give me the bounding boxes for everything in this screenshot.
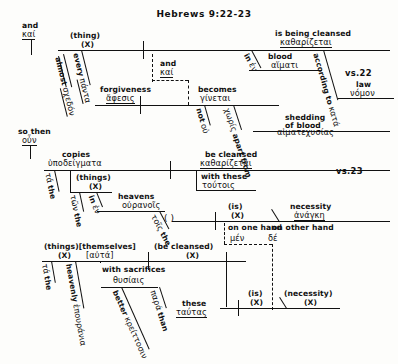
verse-label-22: vs.22	[345, 69, 372, 78]
correlative-greek-de: δέ	[268, 234, 278, 243]
clause1-obj-blood-greek: αἵματι	[271, 61, 298, 70]
clause2-prep-with-line	[196, 190, 256, 191]
clause2-conjunction-greek: οὖν	[22, 136, 37, 146]
clause1-verb-greek: καθαρίζεται	[280, 38, 332, 48]
clause2-prep-with-stem	[196, 170, 197, 190]
art3-ta-greek: τά	[40, 263, 52, 275]
clause3-copula-english: (is)	[248, 289, 262, 298]
clause2-appos-line	[70, 192, 112, 193]
clause1-subject-mod-every: every πάντα	[71, 52, 92, 104]
clause2-appos-stem	[70, 170, 71, 192]
clause1-joiner-greek: καί	[160, 68, 173, 78]
clause2-heavens-line	[97, 211, 165, 212]
clause3-copula-stem	[226, 252, 227, 307]
obj-blood-line	[249, 70, 322, 71]
clause2-copula-placeholder: (X)	[231, 211, 244, 220]
adj-better-english: better	[111, 289, 130, 317]
clause2-loop-connector: ( )	[164, 214, 174, 223]
prep-according-greek: κατά	[327, 105, 342, 128]
adj-heavenly-greek: ἐπουράνια	[71, 303, 88, 347]
clause2-baseline	[44, 170, 390, 171]
mod-almost-greek: σχεδόν	[60, 86, 78, 117]
clause1-subject2-greek: ἄφεσις	[106, 94, 135, 104]
coordinator-dash-left	[152, 54, 153, 82]
clause2-subject-greek: ὑποδείγματα	[48, 159, 102, 168]
clause2-copula-baseline	[172, 221, 390, 222]
obj-law-line	[338, 98, 394, 99]
clause3-verb-placeholder: (X)	[186, 251, 199, 260]
clause1-subject2-verb-divider	[140, 96, 141, 114]
clause1-obj-shedding-greek: αἱματεχυσίας	[277, 128, 334, 137]
page-title: Hebrews 9:22-23	[139, 10, 269, 19]
clause2-predicate-greek: ἀνάγκη	[294, 211, 325, 221]
conjunction-stem-1-dashed	[31, 49, 32, 55]
clause1-subject-english: (thing)	[70, 31, 100, 40]
clause1-baseline-2	[95, 105, 279, 106]
clause1-subject-verb-divider	[143, 41, 144, 59]
clause3-subject-greek: [αὐτά]	[86, 251, 113, 260]
clause2-subject-verb-divider	[170, 161, 171, 179]
clause3-subject-placeholder: (X)	[58, 251, 71, 260]
diagram-canvas: Hebrews 9:22-23 vs.22 vs.23 and καί (thi…	[0, 0, 398, 364]
clause1-conjunction-greek: καί	[22, 30, 35, 40]
clause3-predicate-placeholder: (X)	[304, 298, 317, 307]
art-ta-greek: τά	[43, 172, 55, 184]
clause2-copula-english: (is)	[228, 202, 242, 211]
correlative-english-right-1: on other hand	[272, 223, 334, 232]
clause3-obj-these-greek: ταύτας	[176, 308, 207, 318]
clause2-verb-greek: καθαρίζεται	[200, 159, 252, 169]
clause3-copula-divider	[238, 300, 239, 316]
correlative-dash-bottom	[224, 244, 272, 245]
clause1-obj-law-greek: νόμον	[350, 89, 375, 98]
clause3-copula-placeholder: (X)	[250, 298, 263, 307]
conjunction-stem-2-dashed	[30, 153, 31, 159]
clause2-prep-en: in ἐν	[87, 194, 103, 215]
conjunction-stem-2	[30, 146, 31, 153]
clause3-adj-heavenly: heavenly ἐπουράνια	[64, 263, 87, 347]
art-ton-english: the	[72, 212, 84, 228]
coordinator-dash-right	[188, 80, 189, 105]
clause2-copula-divider	[215, 212, 216, 230]
clause2-prep-with-greek: τούτοις	[202, 181, 235, 190]
clause1-verb2-greek: γίνεται	[200, 94, 230, 103]
mod-every-greek: πάντα	[77, 77, 94, 104]
art-ta-english: the	[46, 184, 58, 200]
clause3-predicate-slash	[279, 297, 287, 309]
clause3-baseline	[42, 261, 246, 262]
clause2-obj-heavens-greek: οὐρανοῖς	[122, 201, 160, 210]
conjunction-stem-1	[31, 40, 32, 49]
correlative-greek-men: μέν	[230, 234, 245, 243]
clause3-prep-with-greek: θυσίαις	[113, 276, 144, 285]
art3-ta-english: the	[42, 275, 53, 291]
correlative-dash-left	[224, 223, 225, 244]
clause3-prep-with-stem	[100, 261, 101, 263]
clause3-prep-than: παρά than	[148, 289, 170, 332]
clause1-subject-placeholder: (X)	[81, 40, 94, 49]
clause1-baseline	[58, 50, 390, 51]
verse-label-23: vs.23	[336, 167, 363, 176]
clause2-appos-english: (things)	[76, 173, 111, 182]
clause3-predicate-english: (necessity)	[284, 289, 332, 298]
coordinator-dash-bottom	[152, 80, 188, 81]
clause2-appos-placeholder: (X)	[89, 182, 102, 191]
correlative-dash-right	[272, 244, 273, 310]
prep-than-greek: παρά	[148, 289, 164, 312]
clause3-prep-with-line	[101, 287, 158, 288]
clause3-adj-better: better κρείττοσιν	[111, 289, 149, 360]
clause3-prep-with-english: with sacrifices	[102, 265, 165, 274]
clause3-verb-english: (be cleansed)	[154, 242, 213, 251]
prep-than-english: than	[156, 311, 171, 332]
